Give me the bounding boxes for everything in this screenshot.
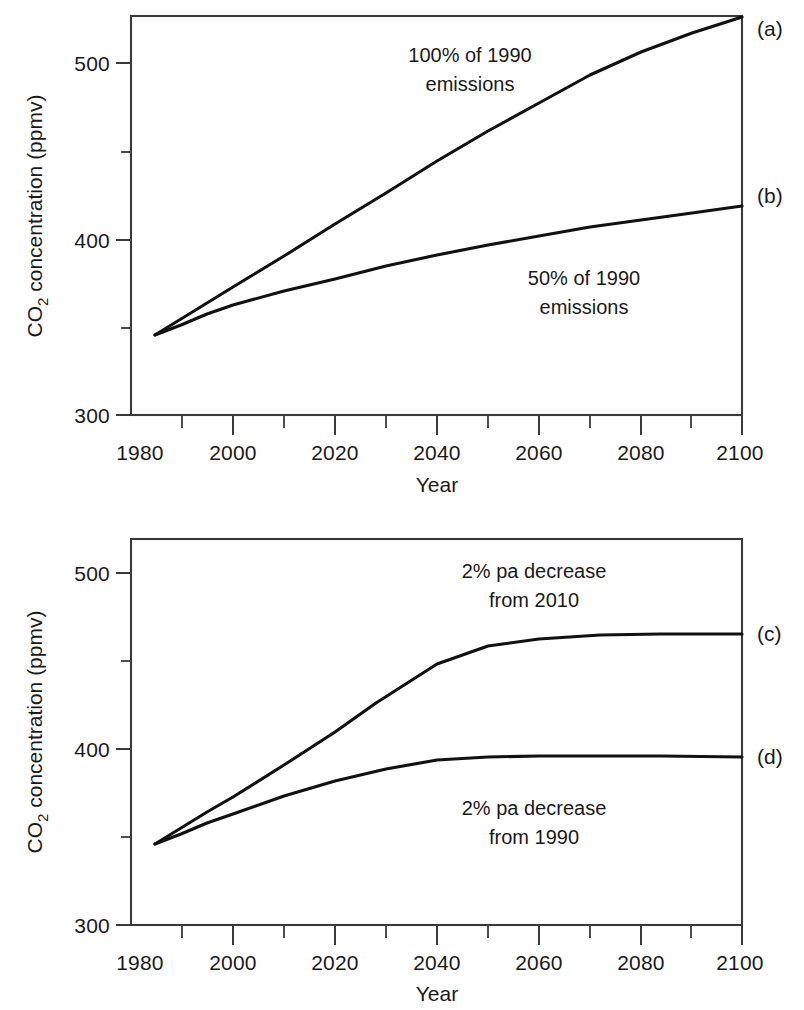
curve-label-d: (d) <box>757 745 783 768</box>
y-axis-title-sub-top: 2 <box>34 298 51 306</box>
x-tick-label-2060-bottom: 2060 <box>515 951 563 974</box>
annotation-d-line2: from 1990 <box>489 826 579 848</box>
x-tick-label-2040-top: 2040 <box>413 441 461 464</box>
curve-b-50pct-1990-emissions <box>155 206 742 335</box>
x-axis-ticks-bottom <box>182 925 742 945</box>
x-tick-label-2100-top: 2100 <box>716 441 764 464</box>
y-axis-title-suffix-top: concentration (ppmv) <box>23 95 46 298</box>
x-tick-label-2000-top: 2000 <box>209 441 257 464</box>
y-axis-title-suffix-bottom: concentration (ppmv) <box>23 611 46 814</box>
curve-label-c: (c) <box>757 622 782 645</box>
chart-panel-top: 500 400 300 1980 2000 2020 2040 2060 208… <box>0 0 804 500</box>
x-tick-label-2020-top: 2020 <box>311 441 359 464</box>
x-tick-label-2020-bottom: 2020 <box>311 951 359 974</box>
y-axis-title-sub-bottom: 2 <box>34 814 51 822</box>
y-tick-label-500-bottom: 500 <box>74 562 110 585</box>
x-axis-title-bottom: Year <box>416 982 458 1005</box>
annotation-c-line2: from 2010 <box>489 589 579 611</box>
x-tick-label-1980-top: 1980 <box>116 441 164 464</box>
y-axis-ticks-top <box>116 63 131 415</box>
x-tick-label-1980-bottom: 1980 <box>116 951 164 974</box>
x-tick-label-2080-top: 2080 <box>617 441 665 464</box>
y-tick-label-500-top: 500 <box>74 52 110 75</box>
x-axis-title-top: Year <box>416 473 458 496</box>
chart-svg-bottom: 500 400 300 1980 2000 2020 2040 2060 208… <box>0 500 804 1010</box>
y-tick-label-400-bottom: 400 <box>74 738 110 761</box>
annotation-d-line1: 2% pa decrease <box>462 797 607 819</box>
x-axis-ticks-top <box>182 415 742 435</box>
chart-panel-bottom: 500 400 300 1980 2000 2020 2040 2060 208… <box>0 500 804 1010</box>
annotation-a-line1: 100% of 1990 <box>408 44 531 66</box>
curve-d-2pct-decrease-from-1990 <box>155 756 742 844</box>
annotation-c-line1: 2% pa decrease <box>462 560 607 582</box>
y-tick-label-400-top: 400 <box>74 229 110 252</box>
chart-svg-top: 500 400 300 1980 2000 2020 2040 2060 208… <box>0 0 804 500</box>
x-tick-label-2080-bottom: 2080 <box>617 951 665 974</box>
annotation-a-line2: emissions <box>426 73 515 95</box>
y-axis-ticks-bottom <box>116 573 131 925</box>
curve-c-2pct-decrease-from-2010 <box>155 634 742 844</box>
annotation-b-line1: 50% of 1990 <box>528 267 640 289</box>
x-tick-label-2040-bottom: 2040 <box>413 951 461 974</box>
curve-label-a: (a) <box>757 17 783 40</box>
x-tick-label-2060-top: 2060 <box>515 441 563 464</box>
plot-frame-bottom <box>131 539 742 925</box>
y-axis-title-top: CO2 concentration (ppmv) <box>23 95 51 338</box>
y-axis-title-bottom: CO2 concentration (ppmv) <box>23 611 51 854</box>
annotation-b-line2: emissions <box>540 296 629 318</box>
y-tick-label-300-bottom: 300 <box>74 914 110 937</box>
curve-label-b: (b) <box>757 184 783 207</box>
y-axis-title-prefix-bottom: CO <box>23 822 46 854</box>
y-tick-label-300-top: 300 <box>74 404 110 427</box>
x-tick-label-2000-bottom: 2000 <box>209 951 257 974</box>
y-axis-title-prefix-top: CO <box>23 306 46 338</box>
x-tick-label-2100-bottom: 2100 <box>716 951 764 974</box>
